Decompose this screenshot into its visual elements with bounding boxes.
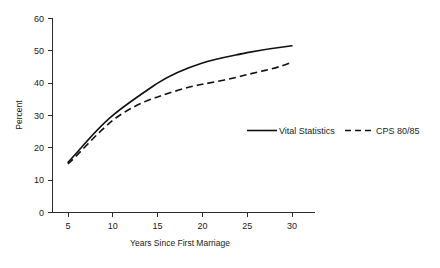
- chart-legend: Vital Statistics CPS 80/85: [247, 126, 420, 136]
- chart-figure: 0 10 20 30 40 50 60 5 10 15 20 25 30 Per…: [0, 0, 440, 268]
- y-tick-label: 30: [34, 111, 44, 121]
- x-axis-ticks: [68, 213, 292, 218]
- y-axis-ticks: [48, 18, 53, 212]
- legend-label-vital-statistics: Vital Statistics: [279, 126, 335, 136]
- x-tick-label: 5: [65, 221, 70, 231]
- y-axis-title: Percent: [14, 100, 24, 130]
- y-tick-label: 10: [34, 175, 44, 185]
- x-tick-label: 25: [242, 221, 252, 231]
- y-tick-label: 20: [34, 143, 44, 153]
- legend-label-cps-80-85: CPS 80/85: [376, 126, 420, 136]
- y-tick-label: 40: [34, 78, 44, 88]
- series-line-vital-statistics: [68, 46, 292, 163]
- x-tick-label: 10: [108, 221, 118, 231]
- series-line-cps-80-85: [68, 62, 292, 164]
- y-tick-label: 0: [39, 208, 44, 218]
- y-tick-label: 60: [34, 14, 44, 24]
- x-tick-label: 20: [197, 221, 207, 231]
- x-tick-label: 30: [287, 221, 297, 231]
- chart-canvas: 0 10 20 30 40 50 60 5 10 15 20 25 30 Per…: [0, 0, 440, 268]
- y-axis-tick-labels: 0 10 20 30 40 50 60: [34, 14, 44, 218]
- y-tick-label: 50: [34, 46, 44, 56]
- x-axis-title: Years Since First Marriage: [130, 238, 230, 248]
- x-tick-label: 15: [153, 221, 163, 231]
- x-axis-tick-labels: 5 10 15 20 25 30: [65, 221, 297, 231]
